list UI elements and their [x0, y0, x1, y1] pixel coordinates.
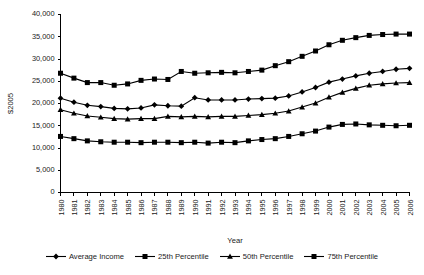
- data-point-marker: [58, 134, 63, 139]
- y-axis-tick-label: 15,000: [32, 121, 55, 130]
- data-point-marker: [246, 69, 251, 74]
- data-point-marker: [58, 71, 63, 76]
- y-axis-tick-label: 25,000: [32, 76, 55, 85]
- x-axis-tick-label: 2001: [338, 200, 347, 216]
- data-point-marker: [273, 63, 278, 68]
- legend-item-2[interactable]: 50th Percentile: [220, 252, 294, 261]
- data-point-marker: [286, 134, 291, 139]
- data-point-marker: [313, 85, 319, 91]
- chart-legend: Average Income25th Percentile50th Percen…: [0, 252, 424, 261]
- data-point-marker: [273, 136, 278, 141]
- y-axis-tick-label: 0: [50, 187, 54, 196]
- legend-item-0[interactable]: Average Income: [46, 252, 124, 261]
- x-axis-tick-label: 2002: [352, 200, 361, 216]
- data-point-marker: [219, 97, 225, 103]
- data-point-marker: [233, 70, 238, 75]
- data-point-marker: [246, 138, 251, 143]
- data-point-marker: [112, 140, 117, 145]
- income-percentile-line-chart: 05,00010,00015,00020,00025,00030,00035,0…: [0, 0, 424, 275]
- data-point-marker: [179, 69, 184, 74]
- series-25th-percentile: [58, 121, 412, 145]
- y-axis-tick-labels: 05,00010,00015,00020,00025,00030,00035,0…: [32, 9, 55, 196]
- x-axis-tick-label: 1993: [231, 200, 240, 216]
- data-point-marker: [71, 76, 76, 81]
- x-axis-title: Year: [227, 236, 243, 245]
- data-point-marker: [353, 121, 358, 126]
- x-axis-tick-label: 1999: [312, 200, 321, 216]
- data-point-marker: [259, 137, 264, 142]
- x-axis-tick-label: 1995: [258, 200, 267, 216]
- data-point-marker: [139, 78, 144, 83]
- data-point-marker: [98, 80, 103, 85]
- data-point-marker: [407, 65, 413, 71]
- data-point-marker: [111, 105, 117, 111]
- y-axis-title: $2005: [6, 93, 15, 114]
- data-point-marker: [152, 102, 158, 108]
- x-axis-tick-label: 2004: [379, 200, 388, 216]
- data-point-marker: [259, 96, 265, 102]
- data-point-marker: [58, 107, 64, 112]
- x-axis-tick-label: 1980: [57, 200, 66, 216]
- data-point-marker: [313, 129, 318, 134]
- x-axis-tick-label: 2000: [325, 200, 334, 216]
- x-axis-tick-label: 1988: [164, 200, 173, 216]
- x-axis-tick-label: 2005: [392, 200, 401, 216]
- data-point-marker: [138, 105, 144, 111]
- data-point-marker: [85, 80, 90, 85]
- data-point-marker: [380, 69, 386, 75]
- data-point-marker: [286, 59, 291, 64]
- data-point-marker: [326, 79, 332, 85]
- legend-marker-diamond-icon: [46, 252, 66, 261]
- series-75th-percentile: [58, 32, 412, 88]
- data-point-marker: [192, 95, 198, 101]
- data-point-marker: [300, 131, 305, 136]
- x-axis-tick-label: 1998: [298, 200, 307, 216]
- data-point-marker: [367, 33, 372, 38]
- legend-marker-triangle-icon: [220, 252, 240, 261]
- data-point-marker: [394, 123, 399, 128]
- data-point-marker: [98, 104, 104, 110]
- data-point-marker: [300, 54, 305, 59]
- data-point-marker: [85, 138, 90, 143]
- data-point-marker: [380, 32, 385, 37]
- data-point-marker: [125, 106, 131, 112]
- x-axis-tick-label: 1984: [110, 200, 119, 216]
- y-axis-tick-label: 40,000: [32, 9, 55, 18]
- x-axis-tick-label: 1982: [83, 200, 92, 216]
- data-point-marker: [178, 103, 184, 109]
- data-point-marker: [246, 96, 252, 102]
- x-axis-tick-label: 1994: [244, 200, 253, 216]
- data-point-marker: [112, 83, 117, 88]
- data-point-marker: [58, 95, 64, 101]
- data-point-marker: [326, 125, 331, 130]
- x-axis-tick-label: 1996: [271, 200, 280, 216]
- data-point-marker: [192, 71, 197, 76]
- data-point-marker: [286, 93, 292, 99]
- data-point-marker: [71, 99, 77, 105]
- data-point-marker: [125, 81, 130, 86]
- x-axis-tick-label: 1997: [285, 200, 294, 216]
- x-axis-tick-label: 1991: [204, 200, 213, 216]
- series-line: [61, 34, 410, 85]
- x-axis-tick-label: 2006: [406, 200, 415, 216]
- data-series-layer: [58, 32, 413, 146]
- data-point-marker: [233, 140, 238, 145]
- legend-item-1[interactable]: 25th Percentile: [135, 252, 209, 261]
- x-axis-tick-label: 1987: [150, 200, 159, 216]
- x-axis-tick-label: 1983: [97, 200, 106, 216]
- data-point-marker: [393, 66, 399, 72]
- data-point-marker: [326, 42, 331, 47]
- legend-item-label: Average Income: [69, 252, 124, 261]
- data-point-marker: [367, 122, 372, 127]
- data-point-marker: [84, 102, 90, 108]
- y-axis-tick-label: 20,000: [32, 98, 55, 107]
- legend-item-3[interactable]: 75th Percentile: [304, 252, 378, 261]
- data-point-marker: [125, 140, 130, 145]
- data-point-marker: [353, 35, 358, 40]
- data-point-marker: [339, 76, 345, 82]
- data-point-marker: [206, 141, 211, 146]
- x-axis-tick-label: 1985: [124, 200, 133, 216]
- data-point-marker: [232, 97, 238, 103]
- data-point-marker: [219, 70, 224, 75]
- data-point-marker: [98, 139, 103, 144]
